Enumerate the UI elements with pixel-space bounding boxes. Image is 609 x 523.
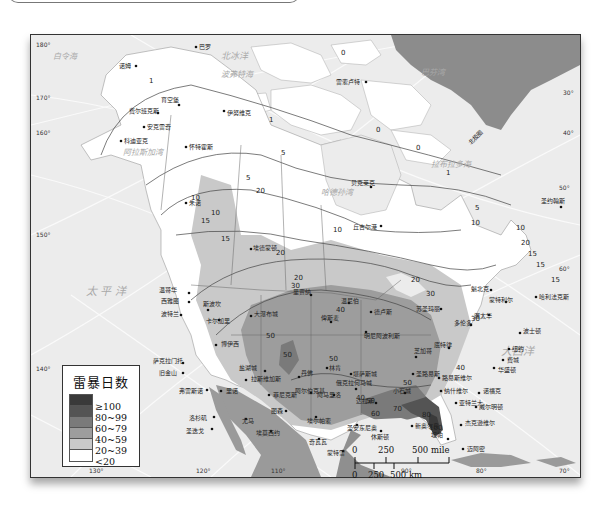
svg-text:阿尔伯克基: 阿尔伯克基 — [295, 387, 325, 395]
svg-text:温尼伯: 温尼伯 — [341, 297, 359, 305]
scale-mile-250: 250 — [378, 445, 394, 455]
svg-text:波士顿: 波士顿 — [523, 327, 541, 335]
lon-50: 50° — [559, 184, 570, 191]
svg-text:芝加哥: 芝加哥 — [414, 347, 432, 355]
svg-text:图森: 图森 — [271, 407, 283, 415]
svg-text:贝克莱克: 贝克莱克 — [351, 179, 375, 187]
svg-text:5: 5 — [246, 174, 250, 182]
lon-160: 160° — [36, 129, 50, 136]
svg-text:30: 30 — [426, 290, 435, 298]
svg-text:1: 1 — [149, 77, 153, 85]
svg-text:温哥华: 温哥华 — [159, 286, 177, 294]
svg-text:巴罗: 巴罗 — [199, 43, 211, 51]
label-pacific-ocean: 太 平 洋 — [86, 285, 128, 298]
svg-text:洛杉矶: 洛杉矶 — [189, 414, 207, 422]
svg-text:林肯: 林肯 — [329, 364, 341, 372]
svg-text:萨克拉门托: 萨克拉门托 — [153, 357, 183, 365]
svg-text:小石城: 小石城 — [393, 387, 411, 395]
svg-text:60: 60 — [371, 410, 380, 418]
legend-label-40-59: 40~59 — [95, 434, 127, 445]
svg-text:纳什维尔: 纳什维尔 — [444, 387, 468, 395]
svg-text:苏圣玛丽: 苏圣玛丽 — [416, 305, 440, 313]
svg-text:20: 20 — [294, 274, 303, 282]
svg-text:50: 50 — [329, 355, 338, 363]
svg-text:50: 50 — [366, 397, 375, 405]
svg-text:弗雷斯诺: 弗雷斯诺 — [179, 387, 203, 395]
svg-text:博伊西: 博伊西 — [221, 340, 239, 348]
svg-text:5: 5 — [475, 204, 479, 212]
svg-text:10: 10 — [516, 224, 525, 232]
svg-text:10: 10 — [471, 219, 480, 227]
svg-text:里诺: 里诺 — [226, 387, 238, 395]
svg-text:蒙特雷: 蒙特雷 — [327, 449, 345, 457]
svg-text:底特律: 底特律 — [434, 341, 452, 349]
svg-text:堪萨斯城: 堪萨斯城 — [353, 370, 377, 378]
svg-text:斯波坎: 斯波坎 — [203, 300, 221, 308]
legend-label-60-79: 60~79 — [95, 423, 127, 434]
svg-text:15: 15 — [536, 261, 545, 269]
legend-label-under-20: <20 — [95, 456, 115, 467]
svg-text:诺福克: 诺福克 — [483, 387, 501, 395]
label-labrador-sea: 拉布拉多海 — [431, 160, 472, 169]
svg-text:西雅图: 西雅图 — [161, 297, 179, 305]
svg-text:菲尼克斯: 菲尼克斯 — [273, 391, 297, 399]
svg-text:迈阿密: 迈阿密 — [467, 445, 485, 453]
svg-text:丘吉尔港: 丘吉尔港 — [353, 223, 377, 231]
svg-text:5: 5 — [281, 149, 285, 157]
label-gulf-of-alaska: 阿拉斯加湾 — [123, 148, 165, 157]
svg-text:50: 50 — [266, 332, 275, 340]
svg-text:明尼阿波利斯: 明尼阿波利斯 — [364, 332, 400, 340]
svg-text:俾斯麦: 俾斯麦 — [321, 314, 339, 322]
svg-text:埃德蒙顿: 埃德蒙顿 — [253, 244, 277, 252]
svg-text:40: 40 — [336, 306, 345, 314]
scale-mile-0: 0 — [352, 445, 357, 455]
svg-text:俄克拉何马城: 俄克拉何马城 — [336, 379, 372, 387]
legend-label-100-plus: ≥100 — [95, 401, 121, 412]
svg-text:威尔明顿: 威尔明顿 — [479, 403, 503, 411]
svg-text:盐湖城: 盐湖城 — [239, 364, 257, 372]
svg-text:100: 100 — [429, 424, 442, 432]
svg-text:卡尔加里: 卡尔加里 — [206, 317, 230, 325]
svg-text:20: 20 — [411, 276, 420, 284]
svg-text:80: 80 — [422, 411, 431, 419]
legend-label-20-39: 20~39 — [95, 445, 127, 456]
svg-text:路易斯维尔: 路易斯维尔 — [442, 374, 472, 382]
lon-40: 40° — [563, 129, 574, 136]
svg-text:魁北克: 魁北克 — [471, 285, 489, 293]
svg-text:40: 40 — [356, 394, 365, 402]
lon-80: 80° — [476, 467, 487, 474]
label-baffin-bay: 巴芬湾 — [421, 68, 447, 77]
lon-70: 70° — [559, 467, 570, 474]
svg-text:0: 0 — [341, 49, 345, 57]
svg-text:育空堡: 育空堡 — [161, 96, 179, 104]
svg-text:杰克逊维尔: 杰克逊维尔 — [465, 419, 495, 427]
svg-text:圣安东尼奥: 圣安东尼奥 — [347, 424, 377, 432]
svg-text:40: 40 — [456, 364, 465, 372]
scale-mile-500: 500 mile — [412, 445, 449, 455]
svg-text:埃莫西约: 埃莫西约 — [256, 429, 280, 437]
svg-text:奇瓦瓦: 奇瓦瓦 — [309, 438, 327, 446]
svg-text:尤马: 尤马 — [242, 417, 254, 425]
svg-text:20: 20 — [521, 239, 530, 247]
svg-text:雷索卢特: 雷索卢特 — [336, 78, 360, 86]
svg-text:埃尔帕索: 埃尔帕索 — [307, 417, 331, 425]
svg-text:华盛顿: 华盛顿 — [498, 366, 516, 374]
svg-text:15: 15 — [528, 250, 537, 258]
scale-km-0: 0 — [352, 470, 357, 480]
svg-text:10: 10 — [191, 194, 200, 202]
svg-text:15: 15 — [551, 276, 560, 284]
svg-text:坦帕: 坦帕 — [431, 431, 443, 439]
svg-text:圣迭戈: 圣迭戈 — [186, 427, 204, 435]
svg-text:10: 10 — [211, 209, 220, 217]
lon-120: 120° — [196, 467, 210, 474]
legend-title: 雷暴日数 — [63, 372, 139, 391]
svg-text:诺姆: 诺姆 — [119, 62, 131, 70]
lon-170: 170° — [36, 94, 50, 101]
svg-text:10: 10 — [333, 226, 342, 234]
svg-text:拉斯维加斯: 拉斯维加斯 — [251, 375, 281, 383]
svg-text:蒙特利尔: 蒙特利尔 — [489, 296, 513, 303]
label-bering-sea: 白令海 — [53, 52, 78, 61]
lon-60: 60° — [559, 265, 570, 272]
lon-150: 150° — [36, 231, 50, 238]
svg-text:旧金山: 旧金山 — [159, 369, 177, 377]
